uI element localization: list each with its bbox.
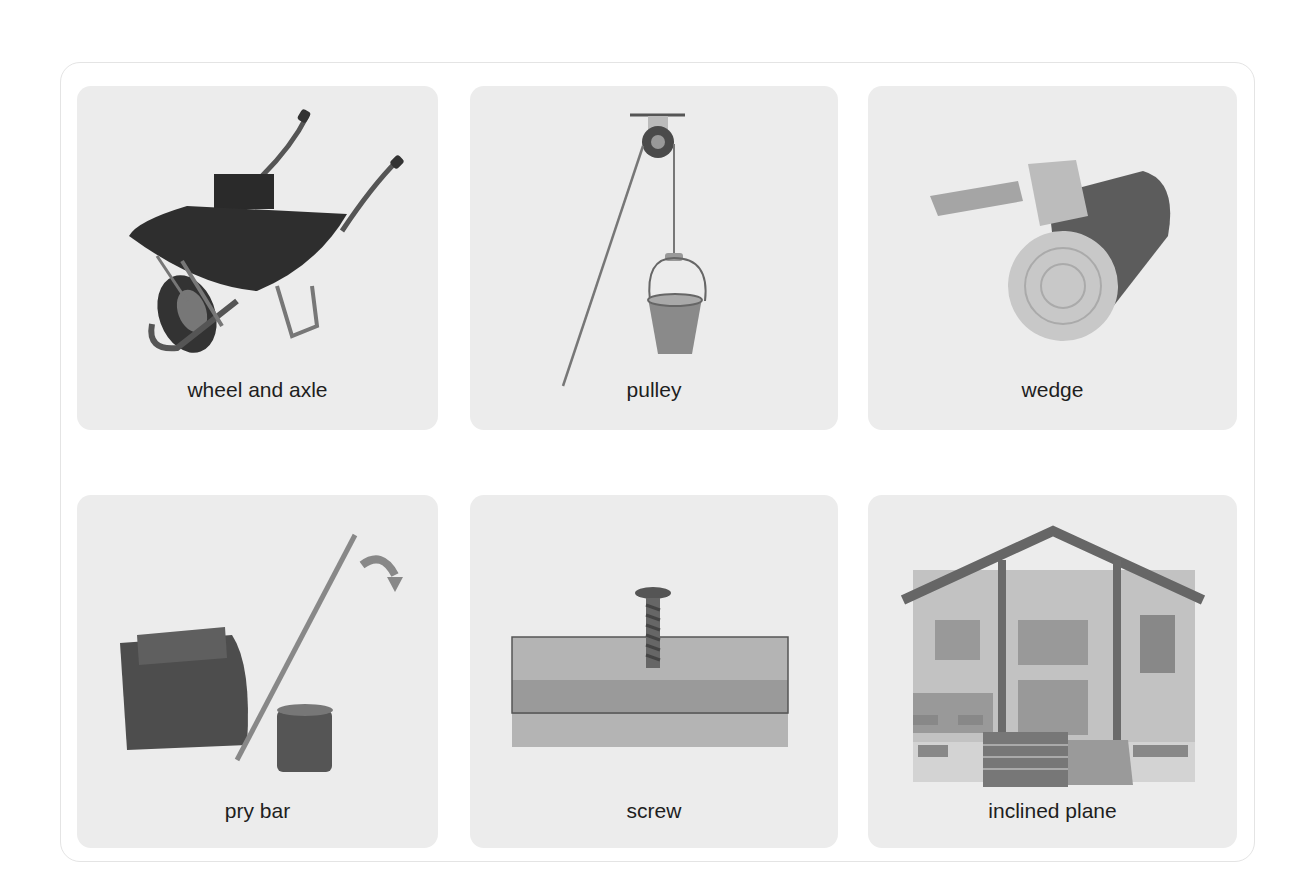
card-label: screw xyxy=(470,799,838,823)
house-ramp-icon xyxy=(868,495,1237,848)
card-wedge[interactable]: wedge xyxy=(868,86,1237,430)
card-label: pulley xyxy=(470,378,838,402)
card-label: wedge xyxy=(868,378,1237,402)
screw-in-wood-icon xyxy=(470,495,838,848)
card-label: wheel and axle xyxy=(77,378,438,402)
card-label: pry bar xyxy=(77,799,438,823)
card-screw[interactable]: screw xyxy=(470,495,838,848)
lever-crowbar-icon xyxy=(77,495,438,848)
card-wheel-and-axle[interactable]: wheel and axle xyxy=(77,86,438,430)
card-label: inclined plane xyxy=(868,799,1237,823)
card-pry-bar[interactable]: pry bar xyxy=(77,495,438,848)
card-pulley[interactable]: pulley xyxy=(470,86,838,430)
card-inclined-plane[interactable]: inclined plane xyxy=(868,495,1237,848)
